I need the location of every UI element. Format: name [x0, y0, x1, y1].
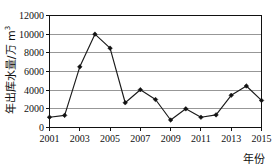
x-tick-label-2003: 2003 — [70, 133, 90, 144]
data-point-2002 — [62, 113, 67, 118]
y-tick-label-8000: 8000 — [24, 47, 44, 58]
data-point-2011 — [199, 115, 204, 120]
data-point-2001 — [47, 115, 52, 120]
y-tick-label-10000: 10000 — [19, 29, 44, 40]
y-axis-title: 年出库水量/万 m3 — [2, 14, 18, 126]
x-tick-label-2007: 2007 — [130, 133, 150, 144]
y-axis-title-text: 年出库水量/万 m3 — [2, 26, 18, 114]
x-tick-label-2009: 2009 — [161, 133, 181, 144]
line-chart: 0200040006000800010000120002001200320052… — [0, 0, 273, 168]
x-tick-label-2001: 2001 — [40, 133, 60, 144]
y-axis-title-exponent: 3 — [4, 26, 12, 30]
x-tick-label-2011: 2011 — [191, 133, 211, 144]
chart-container: 0200040006000800010000120002001200320052… — [0, 0, 273, 168]
x-tick-label-2013: 2013 — [221, 133, 241, 144]
x-tick-label-2015: 2015 — [252, 133, 272, 144]
y-tick-label-2000: 2000 — [24, 103, 44, 114]
x-axis-title: 年份 — [243, 150, 265, 166]
y-tick-label-6000: 6000 — [24, 66, 44, 77]
y-axis-title-main: 年出库水量/万 m — [5, 30, 18, 114]
y-tick-label-4000: 4000 — [24, 85, 44, 96]
y-tick-label-12000: 12000 — [19, 10, 44, 21]
y-tick-label-0: 0 — [39, 122, 44, 133]
data-point-2003 — [77, 65, 82, 70]
x-tick-label-2005: 2005 — [100, 133, 120, 144]
data-line-series — [50, 34, 262, 120]
